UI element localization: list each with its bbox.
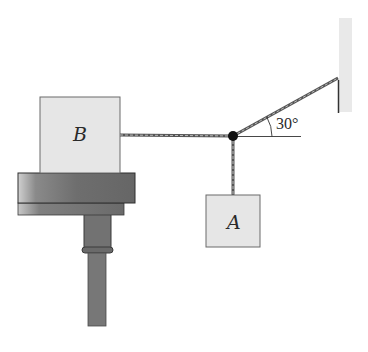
wall-support (339, 18, 353, 113)
angle-label: 30° (276, 115, 298, 133)
rope-horizontal (120, 135, 233, 136)
table-pedestal (82, 214, 113, 326)
knot-point (228, 131, 238, 141)
block-a-label: A (227, 211, 241, 233)
block-b-label: B (73, 123, 87, 145)
table (18, 173, 135, 215)
diagram-canvas: B A 30° (0, 0, 368, 352)
